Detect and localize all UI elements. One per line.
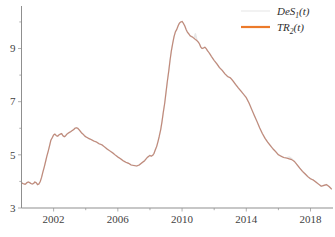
chart-legend: DeS1(t)TR2(t) <box>241 5 310 36</box>
y-tick-label: 7 <box>10 95 16 107</box>
chart-figure: 3579 20022006201020142018 DeS1(t)TR2(t) <box>0 0 335 237</box>
y-axis-ticks: 3579 <box>10 22 22 214</box>
legend-label-1: DeS1(t) <box>276 5 310 20</box>
y-tick-label: 5 <box>10 149 16 161</box>
legend-label-2: TR2(t) <box>277 21 304 36</box>
series-line-1 <box>22 21 332 188</box>
x-axis-ticks: 20022006201020142018 <box>43 208 322 225</box>
x-tick-label: 2014 <box>235 213 258 225</box>
figure-caption <box>0 227 335 237</box>
x-tick-label: 2002 <box>43 213 65 225</box>
line-chart-canvas: 3579 20022006201020142018 DeS1(t)TR2(t) <box>0 0 335 237</box>
x-tick-label: 2006 <box>107 213 130 225</box>
y-tick-label: 9 <box>10 42 16 54</box>
y-tick-label: 3 <box>10 202 16 214</box>
series-line-2 <box>22 21 332 188</box>
x-tick-label: 2010 <box>171 213 194 225</box>
data-series-group <box>22 21 332 188</box>
x-tick-label: 2018 <box>300 213 323 225</box>
